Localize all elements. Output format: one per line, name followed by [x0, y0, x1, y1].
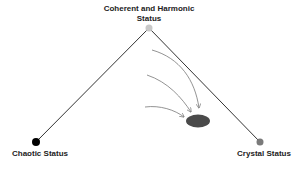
node-top	[146, 25, 153, 32]
node-left	[32, 138, 40, 146]
node-right-label: Crystal Status	[234, 149, 294, 159]
target-state-ellipse	[186, 115, 210, 128]
node-right	[257, 139, 264, 146]
triangle-diagram	[0, 0, 306, 171]
node-left-label: Chaotic Status	[10, 149, 70, 159]
node-top-label: Coherent and Harmonic Status	[99, 4, 199, 24]
flow-arrow-3	[145, 107, 184, 117]
flow-arrow-1	[152, 50, 199, 108]
edge-top-left	[36, 28, 149, 142]
